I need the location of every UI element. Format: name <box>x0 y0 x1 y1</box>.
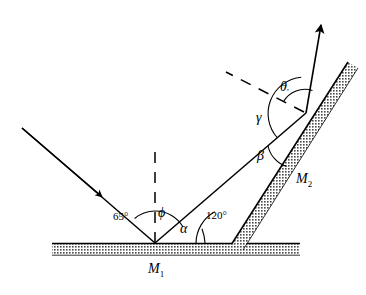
angle-arc-65 <box>135 211 155 219</box>
angle-label-120: 120° <box>206 210 227 221</box>
angle-label-beta: β <box>257 149 264 163</box>
optics-ray-diagram: 65° ϕ α 120° β γ θ′ M1 M2 <box>0 0 366 295</box>
mirror-2-hatching <box>232 62 358 250</box>
mirror-1-hatching <box>52 244 300 255</box>
angle-label-alpha: α <box>180 222 187 236</box>
angle-arcs-m1 <box>135 211 205 243</box>
mirror-2-line <box>232 62 348 244</box>
mirror-1-surface <box>52 244 300 256</box>
mirror-2-label-subscript: 2 <box>308 179 313 189</box>
angle-arc-alpha <box>202 229 205 243</box>
mirror-2-label-glyph: M <box>296 171 308 186</box>
mirror-1-label-subscript: 1 <box>160 269 165 279</box>
angle-label-65: 65° <box>113 211 128 222</box>
outgoing-ray-line <box>306 25 321 113</box>
angle-label-theta: θ′ <box>280 80 289 97</box>
angle-label-gamma: γ <box>256 111 262 125</box>
incident-ray-line <box>22 128 155 243</box>
angle-label-phi: ϕ <box>158 206 165 220</box>
mirror-1-label: M1 <box>148 262 164 279</box>
angle-label-theta-subscript: ′ <box>287 87 289 97</box>
mirror-2-label: M2 <box>296 172 312 189</box>
angle-label-theta-glyph: θ <box>280 79 287 94</box>
mirror-1-label-glyph: M <box>148 261 160 276</box>
normal-line-m2 <box>226 72 304 112</box>
incident-ray <box>22 128 155 243</box>
mirror-2-surface <box>232 62 358 250</box>
diagram-canvas <box>0 0 366 295</box>
